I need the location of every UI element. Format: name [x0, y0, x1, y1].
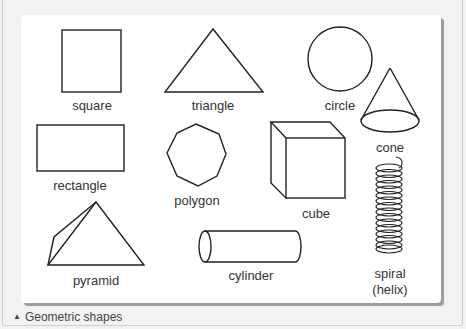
cone-label: cone: [376, 140, 404, 155]
spiral-sublabel: (helix): [372, 282, 407, 297]
pyramid-label: pyramid: [73, 273, 119, 288]
spiral-label: spiral: [374, 266, 405, 281]
rectangle-label: rectangle: [53, 178, 106, 193]
triangle-shape: [165, 29, 263, 92]
cube-shape: [271, 122, 345, 198]
cylinder-label: cylinder: [229, 268, 274, 283]
cylinder-shape: [199, 231, 301, 262]
caption-triangle-icon: ▲: [13, 312, 21, 321]
circle-label: circle: [325, 98, 355, 113]
circle-shape: [308, 27, 372, 91]
pyramid-shape: [48, 202, 144, 265]
spiral-shape: [376, 157, 402, 253]
polygon-label: polygon: [174, 193, 220, 208]
polygon-shape: [167, 124, 226, 186]
cube-label: cube: [302, 206, 330, 221]
caption-text: Geometric shapes: [25, 310, 122, 324]
cone-shape: [361, 68, 419, 132]
triangle-label: triangle: [192, 98, 235, 113]
square-shape: [62, 30, 121, 92]
rectangle-shape: [37, 125, 124, 171]
square-label: square: [72, 98, 112, 113]
figure-caption: ▲Geometric shapes: [13, 310, 122, 324]
